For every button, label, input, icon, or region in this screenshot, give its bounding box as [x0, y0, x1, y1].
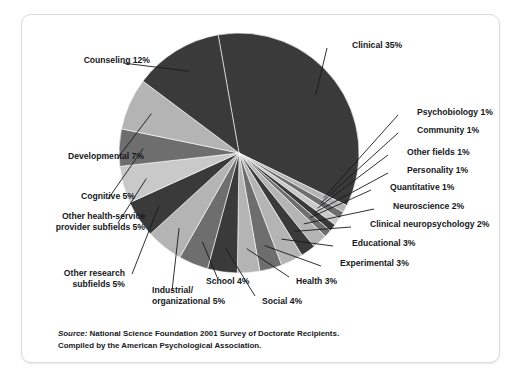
pie-slice-label-line: organizational 5% — [152, 296, 225, 306]
pie-slice-label-line: Community 1% — [417, 125, 479, 135]
pie-slice-label: Clinical 35% — [352, 40, 403, 50]
pie-slice-label: Other researchsubfields 5% — [64, 268, 125, 289]
pie-slice-label: Neuroscience 2% — [393, 201, 465, 211]
pie-slice-label-line: Industrial/ — [152, 285, 194, 295]
pie-slice-label-line: Other fields 1% — [407, 147, 470, 157]
pie-slice-label-line: Experimental 3% — [340, 258, 409, 268]
pie-slice-label-line: Neuroscience 2% — [393, 201, 465, 211]
source-note: Source: National Science Foundation 2001… — [58, 328, 478, 351]
pie-slice-label-line: Personality 1% — [407, 165, 468, 175]
source-label: Source: — [58, 329, 87, 338]
pie-slice-label-line: Quantitative 1% — [390, 182, 455, 192]
pie-slice-label-line: Social 4% — [262, 296, 302, 306]
pie-slice-label-line: Health 3% — [296, 276, 337, 286]
pie-slice-label-line: Developmental 7% — [68, 151, 144, 161]
pie-slice-label-line: Educational 3% — [352, 238, 416, 248]
pie-slice-label: Experimental 3% — [340, 258, 409, 268]
pie-chart-svg: Clinical 35%Psychobiology 1%Community 1%… — [22, 15, 500, 363]
pie-slice-label-line: Counseling 12% — [84, 55, 151, 65]
pie-slice-label: Clinical neuropsychology 2% — [370, 219, 490, 229]
source-line-1: National Science Foundation 2001 Survey … — [87, 329, 339, 338]
pie-slice-label: Community 1% — [417, 125, 479, 135]
pie-slice-label: Health 3% — [296, 276, 337, 286]
pie-slice-label-line: School 4% — [206, 276, 250, 286]
pie-slice-label: Other fields 1% — [407, 147, 470, 157]
pie-slice-label: School 4% — [206, 276, 250, 286]
pie-slice-label-line: Clinical 35% — [352, 40, 403, 50]
pie-slice-label-line: Clinical neuropsychology 2% — [370, 219, 490, 229]
pie-slice-label: Industrial/organizational 5% — [152, 285, 225, 306]
pie-chart-figure: Clinical 35%Psychobiology 1%Community 1%… — [22, 15, 500, 363]
pie-slice-label: Psychobiology 1% — [417, 107, 493, 117]
pie-slice-label: Quantitative 1% — [390, 182, 455, 192]
pie-slice-label: Developmental 7% — [68, 151, 144, 161]
pie-slice-label: Cognitive 5% — [81, 191, 135, 201]
chart-card: Clinical 35%Psychobiology 1%Community 1%… — [21, 14, 500, 363]
pie-slice-label-line: Other research — [64, 268, 125, 278]
pie-slice-label: Social 4% — [262, 296, 302, 306]
pie-slice-label: Counseling 12% — [84, 55, 151, 65]
pie-slice-label: Educational 3% — [352, 238, 416, 248]
pie-slice-label-line: Cognitive 5% — [81, 191, 135, 201]
pie-slice-label-line: Other health-service — [62, 211, 145, 221]
pie-slice-label-line: Psychobiology 1% — [417, 107, 493, 117]
pie-slice-label: Personality 1% — [407, 165, 468, 175]
pie-slice-label-line: subfields 5% — [72, 279, 125, 289]
source-line-2: Compiled by the American Psychological A… — [58, 341, 261, 350]
pie-slice-label-line: provider subfields 5% — [56, 222, 146, 232]
pie-slice-label: Other health-serviceprovider subfields 5… — [56, 211, 146, 232]
pie-slices-group — [119, 33, 359, 273]
